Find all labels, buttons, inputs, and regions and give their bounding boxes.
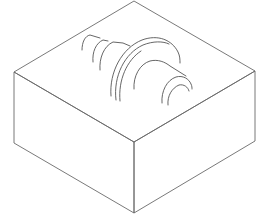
shaft-arc-inner xyxy=(168,85,189,105)
cone-arc-1 xyxy=(82,35,100,50)
shaft-arcs xyxy=(162,76,192,105)
collar-arc-mid xyxy=(116,42,169,100)
box xyxy=(14,1,255,213)
right-face xyxy=(134,71,255,213)
top-face xyxy=(14,1,255,142)
collar-arc-inner xyxy=(120,51,141,101)
collar-arc-bore xyxy=(134,60,186,89)
isometric-block-diagram: Isometric line drawing of a rectangular … xyxy=(0,0,264,224)
shaft-arc-outer xyxy=(162,76,192,103)
block-drawing xyxy=(0,0,264,224)
collar-arcs xyxy=(111,38,186,101)
cone-arc-3 xyxy=(100,42,130,70)
left-face xyxy=(14,72,134,213)
